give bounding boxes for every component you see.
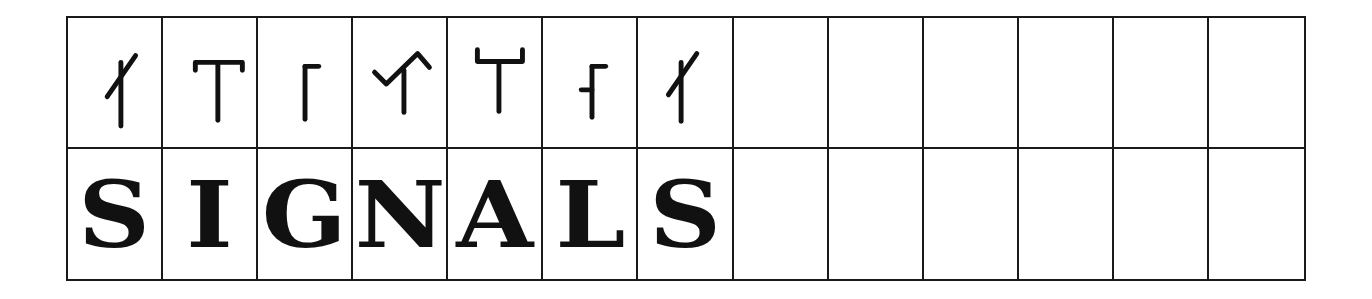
cipher-symbol-cell [448,18,543,149]
answer-letter: S [649,169,721,261]
answer-letter-cell[interactable]: S [68,149,163,279]
cup-stem-icon [448,18,541,147]
diagonal-tick-icon [638,18,731,147]
answer-letter-cell[interactable]: S [638,149,733,279]
cipher-symbol-cell [353,18,448,149]
cipher-symbol-cell [543,18,638,149]
answer-letter-cell[interactable] [829,149,924,279]
answer-letter-cell[interactable] [1019,149,1114,279]
diagonal-tick-icon [68,18,161,147]
answer-letter: A [456,169,533,261]
cipher-symbol-cell [258,18,353,149]
cipher-symbol-cell [1114,18,1209,149]
answer-letter-cell[interactable]: A [448,149,543,279]
cipher-symbol-cell [734,18,829,149]
answer-letter-cell[interactable] [734,149,829,279]
gamma-icon [258,18,351,147]
cipher-symbol-cell [68,18,163,149]
check-stem-icon [353,18,446,147]
answer-letter-cell[interactable]: N [353,149,448,279]
answer-letter-cell[interactable]: I [163,149,258,279]
cipher-symbol-cell [638,18,733,149]
answer-letter: S [79,169,151,261]
answer-letter: N [354,169,445,261]
cipher-symbol-cell [163,18,258,149]
answer-letter-cell[interactable]: L [543,149,638,279]
answer-letter: G [262,169,347,261]
cipher-symbol-cell [1019,18,1114,149]
answer-letter-cell[interactable]: G [258,149,353,279]
answer-letter: L [555,169,625,261]
answer-letter-cell[interactable] [924,149,1019,279]
cipher-puzzle-grid: SIGNALS [66,16,1306,281]
answer-letter: I [186,169,232,261]
cipher-symbol-cell [829,18,924,149]
cipher-symbol-cell [924,18,1019,149]
answer-letter-cell[interactable] [1114,149,1209,279]
gamma-stub-icon [543,18,636,147]
cipher-symbol-cell [1209,18,1304,149]
t-bar-icon [163,18,256,147]
answer-letter-cell[interactable] [1209,149,1304,279]
